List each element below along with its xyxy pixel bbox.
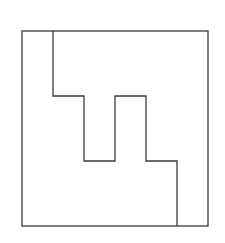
square-division-diagram <box>0 0 225 243</box>
diagram-canvas <box>0 0 225 243</box>
stepped-divider-line <box>53 31 177 226</box>
